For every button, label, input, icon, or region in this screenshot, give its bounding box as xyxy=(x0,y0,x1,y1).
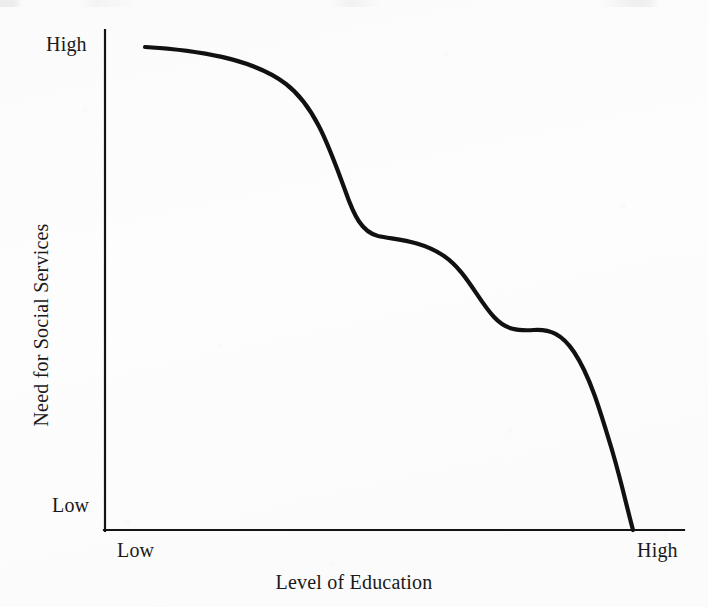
plot-area xyxy=(0,0,708,607)
figure-root: High Low Low High Need for Social Servic… xyxy=(0,0,708,607)
y-axis-tick-label-high: High xyxy=(46,34,87,54)
y-axis-tick-label-low: Low xyxy=(52,495,89,515)
y-axis-title: Need for Social Services xyxy=(31,200,51,450)
x-axis-tick-label-high: High xyxy=(637,540,678,560)
data-curve-need-for-social-services xyxy=(145,47,633,530)
x-axis-tick-label-low: Low xyxy=(117,540,154,560)
x-axis-title: Level of Education xyxy=(0,572,708,592)
